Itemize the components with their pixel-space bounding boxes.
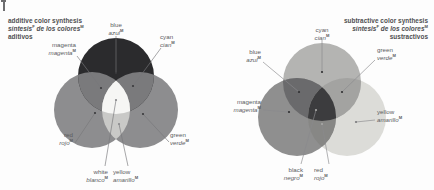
label-cyan: cyan cianM: [302, 26, 342, 41]
label-red: red rojoM: [20, 131, 73, 146]
label-yellow: yellow amarilloM: [113, 168, 138, 183]
label-black: black negroM: [261, 166, 303, 181]
label-white: white blancoM: [68, 168, 108, 183]
label-yellow: yellow amarilloM: [377, 108, 402, 123]
label-magenta: magenta magentaM: [207, 98, 261, 113]
label-cyan: cyan cianM: [160, 33, 175, 48]
label-blue: blue azulM: [96, 21, 136, 36]
figure-page: additive color synthesis síntesisF de lo…: [0, 0, 434, 190]
label-magenta: magenta magentaM: [14, 41, 76, 56]
panel-subtractive: subtractive color synthesis síntesisF de…: [217, 0, 434, 190]
label-blue: blue azulM: [217, 48, 261, 63]
panel-additive: additive color synthesis síntesisF de lo…: [0, 0, 217, 190]
label-green: green verdeM: [377, 46, 396, 61]
label-green: green verdeM: [170, 131, 189, 146]
label-red: red rojoM: [314, 166, 328, 181]
